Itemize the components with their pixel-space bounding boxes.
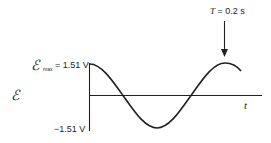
x-axis-label: t xyxy=(244,99,248,111)
emf-max-value: = 1.51 V xyxy=(55,60,89,70)
emf-max-subscript: max xyxy=(43,66,53,72)
period-label: T = 0.2 s xyxy=(210,6,245,16)
emf-max-symbol: ℰ xyxy=(31,58,41,73)
emf-min-value: −1.51 V xyxy=(54,124,85,134)
arrow-down-icon xyxy=(221,49,228,57)
emf-graph: T = 0.2 s ℰ max = 1.51 V ℰ −1.51 V t xyxy=(0,0,271,143)
y-axis-label: ℰ xyxy=(11,88,21,103)
